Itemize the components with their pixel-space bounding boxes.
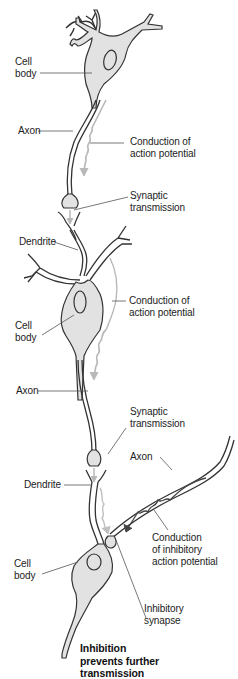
neuron-1 (62, 10, 162, 208)
label-inhibitory-synapse: Inhibitory synapse (144, 603, 184, 627)
label-cell-body-2: Cell body (15, 320, 36, 344)
neuron-diagram: Cell body Axon Conduction of action pote… (0, 0, 238, 679)
label-cell-body-1: Cell body (15, 56, 36, 80)
label-dendrite-2: Dendrite (19, 236, 56, 248)
label-synaptic-1: Synaptic transmission (130, 190, 185, 214)
label-dendrite-3: Dendrite (24, 479, 61, 491)
label-synaptic-2: Synaptic transmission (130, 406, 185, 430)
cell-body-2-shape (61, 280, 103, 400)
label-conduction-inhibitory: Conduction of inhibitory action potentia… (152, 532, 218, 568)
label-conduction-1: Conduction of action potential (130, 136, 196, 160)
label-axon-2: Axon (16, 385, 38, 397)
label-axon-inhibitory: Axon (130, 451, 152, 463)
label-conclusion: Inhibition prevents further transmission (80, 642, 159, 679)
label-axon-1: Axon (18, 125, 40, 137)
neuron-2 (24, 210, 132, 466)
label-cell-body-3: Cell body (14, 558, 35, 582)
label-conduction-2: Conduction of action potential (129, 295, 195, 319)
